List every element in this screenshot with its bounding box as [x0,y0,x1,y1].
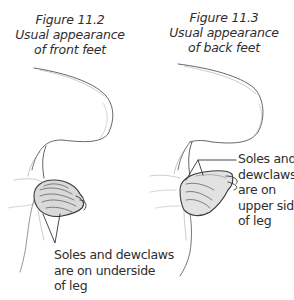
annotation-line: dewclaws [238,167,294,183]
annotation-line: upper side [238,198,294,214]
annotation-line: of leg [238,213,294,229]
caption-line: Usual appearance [168,25,280,40]
annotation-line: are on underside [54,263,174,279]
front-feet-annotation: Soles and dewclaws are on underside of l… [54,247,174,294]
front-foot-drawing [8,68,113,272]
figure-11-3-caption: Figure 11.3 Usual appearance of back fee… [168,10,280,55]
caption-line: Usual appearance [14,27,126,42]
annotation-line: of leg [54,278,174,294]
annotation-line: Soles and [238,151,294,167]
caption-line: of front feet [14,42,126,57]
caption-line: of back feet [168,40,280,55]
annotation-line: are on [238,182,294,198]
annotation-line: Soles and dewclaws [54,247,174,263]
figure-number: Figure 11.3 [168,10,280,25]
figure-11-2-caption: Figure 11.2 Usual appearance of front fe… [14,12,126,57]
figure-number: Figure 11.2 [14,12,126,27]
back-feet-annotation: Soles and dewclaws are on upper side of … [238,151,294,229]
